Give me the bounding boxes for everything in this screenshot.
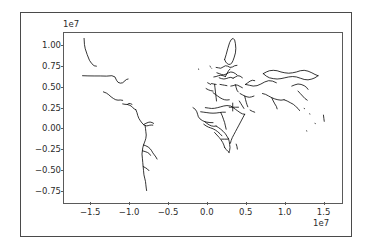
route-line [235,85,238,92]
x-tick-mark [246,202,247,205]
y-tick-label: 1.00 [23,40,61,50]
route-line [205,106,230,109]
route-line [84,38,96,66]
route-line [298,91,307,100]
y-tick-label: −0.50 [23,165,61,175]
route-line [250,110,255,112]
y-tick-mark [61,170,64,171]
x-tick-label: 1.0 [265,207,305,217]
route-line [262,94,284,101]
x-tick-mark [324,202,325,205]
route-line [142,125,147,190]
route-line [292,84,308,89]
x-tick-mark [168,202,169,205]
plot-axes-area [63,32,343,204]
y-tick-label: −0.25 [23,144,61,154]
route-line [245,80,254,84]
y-tick-mark [61,191,64,192]
route-line [143,167,149,171]
route-line [263,70,318,75]
y-tick-mark [61,87,64,88]
x-tick-mark [207,202,208,205]
route-line [231,85,243,88]
y-tick-mark [61,45,64,46]
y-tick-label: 0.75 [23,61,61,71]
route-line [263,74,318,80]
route-line [215,84,217,101]
route-line [233,76,242,78]
route-line [201,112,226,113]
route-line [83,76,129,83]
route-line [208,83,211,85]
route-line [214,75,226,77]
route-line [220,84,227,85]
route-line [228,139,230,153]
x-tick-label: 0.5 [226,207,266,217]
x-tick-label: 0.0 [187,207,227,217]
route-line [230,114,244,143]
route-line [127,103,132,104]
x-tick-mark [90,202,91,205]
plot-line-layer [64,33,342,203]
route-line [216,65,237,68]
route-line [206,89,213,91]
x-tick-mark [129,202,130,205]
route-line [211,84,216,85]
route-line [136,110,153,126]
x-tick-label: 1.5 [304,207,344,217]
y-tick-label: 0.25 [23,103,61,113]
y-tick-label: 0.00 [23,123,61,133]
figure-canvas: 1e7 1.000.750.500.250.00−0.25−0.50−0.75 … [20,12,352,237]
route-line [225,147,230,152]
route-line [144,122,154,125]
route-line [215,133,225,148]
route-line [225,38,236,64]
x-tick-mark [285,202,286,205]
route-line [239,101,244,108]
route-line [245,96,248,107]
route-line [219,77,233,79]
y-tick-mark [61,128,64,129]
x-axis-offset-label: 1e7 [313,218,329,228]
y-tick-mark [61,108,64,109]
x-tick-label: −0.5 [148,207,188,217]
route-line [323,115,324,121]
route-line [142,151,150,156]
route-line [236,144,237,149]
route-line [221,113,226,130]
x-tick-label: −1.0 [109,207,149,217]
y-axis-offset-label: 1e7 [63,19,79,29]
y-tick-label: 0.50 [23,82,61,92]
x-axis-tick-labels: −1.5−1.0−0.50.00.51.01.5 [21,205,351,219]
route-line [103,92,122,100]
route-line [240,94,254,98]
route-line [123,104,136,110]
y-tick-label: −0.75 [23,186,61,196]
x-tick-label: −1.5 [70,207,110,217]
route-line [284,100,299,111]
y-tick-mark [61,149,64,150]
y-tick-mark [61,66,64,67]
y-axis-tick-labels: 1.000.750.500.250.00−0.25−0.50−0.75 [21,13,61,236]
route-line [193,108,213,123]
